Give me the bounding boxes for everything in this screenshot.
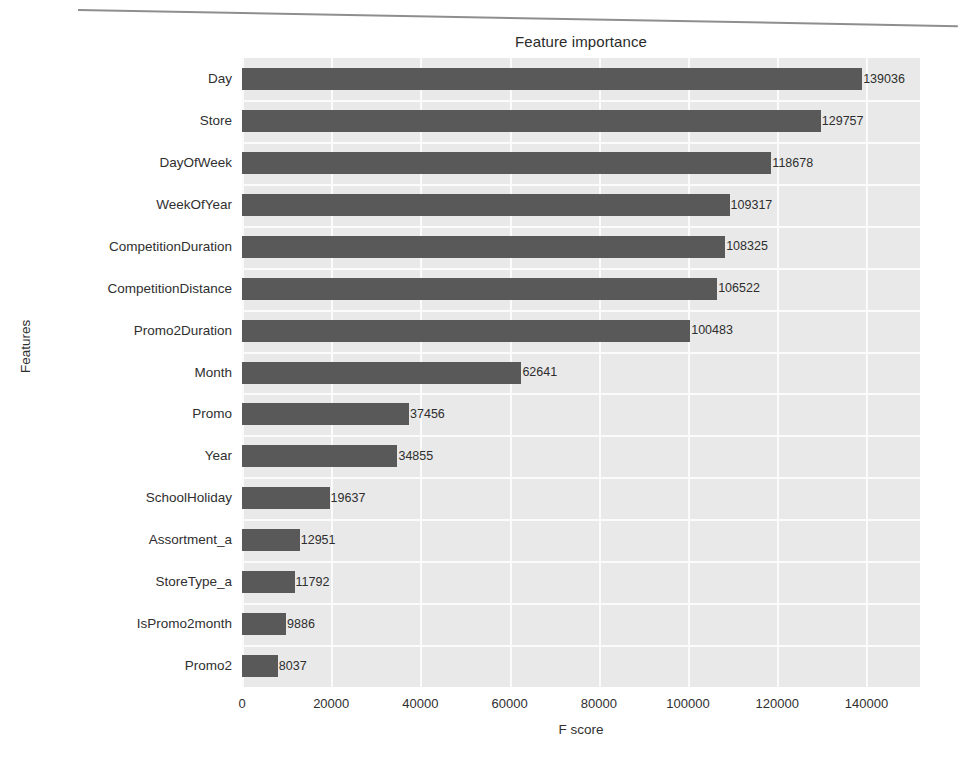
y-axis-tick-label: IsPromo2month	[22, 617, 232, 631]
bar-row: 129757	[242, 110, 920, 132]
bar	[242, 68, 862, 90]
bar-row: 118678	[242, 152, 920, 174]
y-axis-tick-label: SchoolHoliday	[22, 492, 232, 506]
bar-row: 37456	[242, 403, 920, 425]
bar-value-label: 109317	[731, 199, 773, 212]
bar	[242, 152, 771, 174]
bar-row: 9886	[242, 613, 920, 635]
y-axis-tick-label: DayOfWeek	[22, 156, 232, 170]
bar-row: 108325	[242, 236, 920, 258]
feature-importance-chart-figure: Feature importance 139036129757118678109…	[0, 0, 962, 779]
y-axis-tick-label: Store	[22, 114, 232, 128]
gridline-horizontal	[242, 645, 920, 647]
bar	[242, 571, 295, 593]
gridline-horizontal	[242, 310, 920, 312]
y-axis-tick-label: Day	[22, 72, 232, 86]
bar-value-label: 12951	[301, 534, 336, 547]
x-axis-tick-label: 60000	[492, 697, 528, 710]
y-axis-tick-label: Assortment_a	[22, 533, 232, 547]
bar-value-label: 106522	[718, 282, 760, 295]
plot-area: 1390361297571186781093171083251065221004…	[242, 58, 920, 687]
x-axis-tick-label: 120000	[756, 697, 799, 710]
bar-value-label: 62641	[522, 366, 557, 379]
bar	[242, 278, 717, 300]
bar	[242, 110, 821, 132]
bar-value-label: 11792	[296, 576, 330, 589]
bar	[242, 655, 278, 677]
bar	[242, 613, 286, 635]
gridline-horizontal	[242, 519, 920, 521]
y-axis-tick-label: Promo2	[22, 659, 232, 673]
bar	[242, 194, 730, 216]
bar-value-label: 100483	[691, 324, 733, 337]
bar-row: 109317	[242, 194, 920, 216]
bar-row: 62641	[242, 362, 920, 384]
y-axis-tick-label: CompetitionDistance	[22, 282, 232, 296]
bar-row: 106522	[242, 278, 920, 300]
y-axis-tick-label: WeekOfYear	[22, 198, 232, 212]
y-axis-tick-label: Promo2Duration	[22, 324, 232, 338]
bar-row: 8037	[242, 655, 920, 677]
gridline-horizontal	[242, 268, 920, 270]
x-axis-title: F score	[242, 722, 920, 737]
bar	[242, 320, 690, 342]
gridline-horizontal	[242, 142, 920, 144]
bar-row: 12951	[242, 529, 920, 551]
bar-value-label: 8037	[279, 660, 307, 673]
bar-value-label: 34855	[398, 450, 433, 463]
bar	[242, 487, 330, 509]
bar-value-label: 108325	[726, 240, 768, 253]
y-axis-tick-label: StoreType_a	[22, 575, 232, 589]
chart-title: Feature importance	[242, 33, 920, 50]
gridline-horizontal	[242, 226, 920, 228]
gridline-horizontal	[242, 603, 920, 605]
y-axis-tick-label: Year	[22, 450, 232, 464]
y-axis-tick-label: CompetitionDuration	[22, 240, 232, 254]
y-axis-title: Features	[18, 320, 33, 373]
gridline-horizontal	[242, 393, 920, 395]
x-axis-tick-label: 140000	[845, 697, 888, 710]
x-axis-tick-label: 0	[238, 697, 245, 710]
x-axis-tick-label: 20000	[313, 697, 349, 710]
bar	[242, 362, 521, 384]
bar	[242, 403, 409, 425]
gridline-horizontal	[242, 352, 920, 354]
y-axis-tick-labels: DayStoreDayOfWeekWeekOfYearCompetitionDu…	[22, 58, 232, 687]
gridline-horizontal	[242, 435, 920, 437]
y-axis-tick-label: Promo	[22, 408, 232, 422]
bar-row: 100483	[242, 320, 920, 342]
y-axis-tick-label: Month	[22, 366, 232, 380]
x-axis-tick-labels: 020000400006000080000100000120000140000	[242, 697, 920, 717]
bar	[242, 236, 725, 258]
bar-row: 19637	[242, 487, 920, 509]
gridline-horizontal	[242, 184, 920, 186]
gridline-horizontal	[242, 561, 920, 563]
bar	[242, 529, 300, 551]
x-axis-tick-label: 100000	[666, 697, 709, 710]
bar-row: 11792	[242, 571, 920, 593]
bar-value-label: 129757	[822, 115, 864, 128]
bar-row: 34855	[242, 445, 920, 467]
bar-value-label: 19637	[331, 492, 366, 505]
gridline-horizontal	[242, 477, 920, 479]
bar	[242, 445, 397, 467]
bar-value-label: 139036	[863, 73, 905, 86]
bar-value-label: 37456	[410, 408, 445, 421]
bar-value-label: 9886	[287, 618, 315, 631]
bar-value-label: 118678	[772, 157, 813, 170]
x-axis-tick-label: 40000	[402, 697, 438, 710]
bar-row: 139036	[242, 68, 920, 90]
gridline-horizontal	[242, 100, 920, 102]
x-axis-tick-label: 80000	[581, 697, 617, 710]
